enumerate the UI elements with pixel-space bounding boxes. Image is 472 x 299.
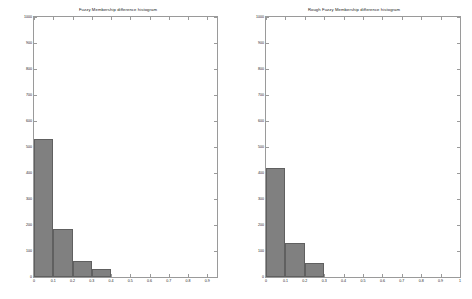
x-tick-label: 0.3: [89, 279, 94, 283]
y-tick-label: 700: [26, 93, 32, 97]
y-tick-label: 400: [258, 171, 264, 175]
y-tick-0-0: [34, 277, 37, 278]
x-tick-top-1-9: [441, 17, 442, 20]
histogram-bar: [73, 261, 92, 277]
y-tick-right-0-2: [214, 225, 217, 226]
x-tick-top-0-5: [130, 17, 131, 20]
x-tick-label: 0.9: [438, 279, 443, 283]
y-tick-label: 300: [258, 197, 264, 201]
x-tick-1-9: [441, 274, 442, 277]
x-tick-0-9: [207, 274, 208, 277]
histogram-bar: [305, 263, 324, 277]
y-tick-label: 300: [26, 197, 32, 201]
x-tick-label: 0.6: [147, 279, 152, 283]
x-tick-label: 0.8: [419, 279, 424, 283]
x-tick-top-0-9: [207, 17, 208, 20]
y-tick-label: 1000: [24, 15, 32, 19]
x-tick-top-1-10: [460, 17, 461, 20]
y-tick-label: 500: [258, 145, 264, 149]
chart-title-right: Rough Fuzzy Membership difference histog…: [236, 7, 472, 13]
figure-container: Fuzzy Membership difference histogram 01…: [0, 0, 472, 299]
y-tick-right-1-2: [457, 225, 460, 226]
y-tick-label: 500: [26, 145, 32, 149]
y-tick-1-5: [266, 147, 269, 148]
x-tick-top-0-6: [150, 17, 151, 20]
chart-panel-right: Rough Fuzzy Membership difference histog…: [236, 0, 472, 299]
y-tick-right-0-1: [214, 251, 217, 252]
y-tick-label: 600: [26, 119, 32, 123]
x-tick-label: 0.2: [302, 279, 307, 283]
y-tick-label: 1000: [256, 15, 264, 19]
y-tick-right-1-0: [457, 277, 460, 278]
x-tick-0-5: [130, 274, 131, 277]
x-tick-top-1-2: [305, 17, 306, 20]
y-tick-right-0-5: [214, 147, 217, 148]
x-tick-top-0-7: [169, 17, 170, 20]
y-tick-0-7: [34, 95, 37, 96]
y-tick-right-1-3: [457, 199, 460, 200]
x-tick-label: 0.3: [322, 279, 327, 283]
y-tick-right-0-4: [214, 173, 217, 174]
y-tick-right-0-7: [214, 95, 217, 96]
x-tick-1-3: [324, 274, 325, 277]
y-tick-label: 200: [258, 223, 264, 227]
y-tick-label: 400: [26, 171, 32, 175]
y-tick-right-0-3: [214, 199, 217, 200]
y-tick-label: 0: [262, 275, 264, 279]
x-tick-1-4: [344, 274, 345, 277]
y-tick-label: 700: [258, 93, 264, 97]
chart-panel-left: Fuzzy Membership difference histogram 01…: [0, 0, 236, 299]
y-tick-0-8: [34, 69, 37, 70]
x-tick-label: 0.9: [205, 279, 210, 283]
y-tick-label: 600: [258, 119, 264, 123]
x-tick-top-0-3: [92, 17, 93, 20]
x-tick-label: 0.1: [283, 279, 288, 283]
y-tick-label: 100: [258, 249, 264, 253]
x-tick-top-0-0: [34, 17, 35, 20]
x-tick-label: 0.7: [399, 279, 404, 283]
y-tick-right-0-8: [214, 69, 217, 70]
x-tick-top-1-1: [285, 17, 286, 20]
y-tick-label: 900: [26, 41, 32, 45]
y-tick-right-1-6: [457, 121, 460, 122]
y-tick-right-1-9: [457, 43, 460, 44]
y-tick-right-0-0: [214, 277, 217, 278]
y-tick-0-6: [34, 121, 37, 122]
y-tick-label: 800: [258, 67, 264, 71]
x-tick-top-0-8: [188, 17, 189, 20]
x-tick-label: 0.5: [128, 279, 133, 283]
x-tick-label: 0.6: [380, 279, 385, 283]
histogram-bar: [266, 168, 285, 277]
y-tick-right-1-5: [457, 147, 460, 148]
x-tick-1-5: [363, 274, 364, 277]
x-tick-top-1-0: [266, 17, 267, 20]
histogram-bar: [285, 243, 304, 277]
histogram-bar: [34, 139, 53, 277]
x-tick-top-1-5: [363, 17, 364, 20]
x-tick-label: 0.1: [51, 279, 56, 283]
x-tick-top-1-3: [324, 17, 325, 20]
y-tick-1-6: [266, 121, 269, 122]
x-tick-label: 0.7: [166, 279, 171, 283]
x-tick-1-10: [460, 274, 461, 277]
x-tick-top-0-4: [111, 17, 112, 20]
plot-area-right: 0100200300400500600700800900100000.10.20…: [265, 16, 461, 278]
y-tick-right-1-7: [457, 95, 460, 96]
x-tick-top-0-2: [73, 17, 74, 20]
y-tick-label: 200: [26, 223, 32, 227]
x-tick-1-7: [402, 274, 403, 277]
x-tick-0-4: [111, 274, 112, 277]
x-tick-label: 1: [459, 279, 461, 283]
x-tick-top-1-7: [402, 17, 403, 20]
x-tick-top-1-4: [344, 17, 345, 20]
y-tick-1-9: [266, 43, 269, 44]
x-tick-label: 0.4: [341, 279, 346, 283]
y-tick-right-1-1: [457, 251, 460, 252]
y-tick-label: 0: [30, 275, 32, 279]
x-tick-top-1-6: [382, 17, 383, 20]
x-tick-label: 0.5: [361, 279, 366, 283]
x-tick-1-6: [382, 274, 383, 277]
histogram-bar: [53, 229, 72, 277]
y-tick-1-0: [266, 277, 269, 278]
x-tick-label: 0: [33, 279, 35, 283]
